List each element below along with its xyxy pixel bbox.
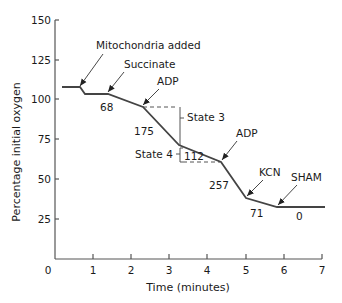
y-tick-100: 100 xyxy=(31,93,51,105)
state-3-bracket xyxy=(180,107,184,145)
x-axis xyxy=(55,254,322,259)
x-tick-1: 1 xyxy=(90,264,97,276)
adp-label-2: ADP xyxy=(236,127,258,139)
rate-175: 175 xyxy=(134,125,154,137)
x-tick-0: 0 xyxy=(45,264,52,276)
y-tick-75: 75 xyxy=(38,133,51,145)
state-4-bracket xyxy=(176,148,183,162)
y-axis-title: Percentage initial oxygen xyxy=(10,82,23,221)
succinate-label: Succinate xyxy=(124,58,175,70)
state-3-label: State 3 xyxy=(187,111,225,123)
kcn-label: KCN xyxy=(259,166,281,178)
rate-71: 71 xyxy=(250,207,263,219)
state-4-label: State 4 xyxy=(135,148,173,160)
x-tick-4: 4 xyxy=(204,264,211,276)
y-tick-25: 25 xyxy=(38,213,51,225)
x-tick-3: 3 xyxy=(166,264,173,276)
x-tick-7: 7 xyxy=(319,264,326,276)
y-axis xyxy=(55,20,59,259)
rate-112: 112 xyxy=(184,150,204,162)
x-tick-2: 2 xyxy=(128,264,135,276)
x-tick-5: 5 xyxy=(243,264,250,276)
rate-68: 68 xyxy=(100,101,113,113)
oxygen-consumption-chart: 150 125 100 75 50 25 0 1 2 3 4 5 6 7 Tim… xyxy=(0,0,342,303)
x-tick-labels: 0 1 2 3 4 5 6 7 xyxy=(45,264,326,276)
y-tick-150: 150 xyxy=(31,14,51,26)
rate-0: 0 xyxy=(296,210,303,222)
x-tick-6: 6 xyxy=(281,264,288,276)
annotation-arrows xyxy=(80,54,297,205)
adp-label-1: ADP xyxy=(157,75,179,87)
y-tick-labels: 150 125 100 75 50 25 xyxy=(31,14,51,225)
rate-257: 257 xyxy=(209,179,229,191)
y-tick-125: 125 xyxy=(31,54,51,66)
x-axis-title: Time (minutes) xyxy=(145,281,230,294)
mitochondria-added-label: Mitochondria added xyxy=(96,39,201,51)
y-tick-50: 50 xyxy=(38,173,51,185)
sham-label: SHAM xyxy=(291,171,322,183)
